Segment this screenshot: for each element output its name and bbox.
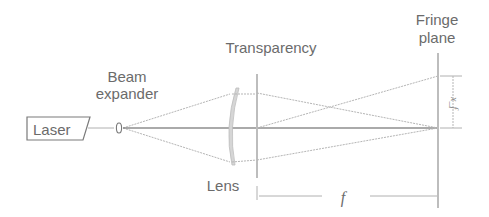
beam-expander-label-line2: expander — [96, 85, 159, 102]
focal-length-dimension: f — [257, 186, 437, 207]
laser: Laser — [27, 117, 90, 140]
ray-collimated-lower — [232, 160, 257, 162]
lens: Lens — [207, 88, 240, 194]
lens-icon — [229, 88, 239, 165]
lens-label: Lens — [207, 177, 240, 194]
ray-diffracted — [257, 76, 438, 128]
laser-label: Laser — [33, 121, 71, 138]
ray-diverge-lower — [123, 128, 230, 162]
fringe-plane: Fringe plane — [416, 11, 459, 208]
beam-expander-label-line1: Beam — [107, 68, 146, 85]
transparency-label: Transparency — [225, 39, 317, 56]
beam-expander: Beam expander — [96, 68, 159, 133]
transparency: Transparency — [225, 39, 317, 178]
fringe-plane-label-line2: plane — [419, 29, 456, 46]
fringe-plane-label-line1: Fringe — [416, 11, 459, 28]
ray-focus-lower — [257, 128, 438, 160]
ray-focus-upper — [257, 93, 438, 128]
beam-expander-lens-icon — [116, 123, 121, 133]
focal-length-label: f — [341, 189, 348, 207]
optical-setup-diagram: Laser Beam expander Lens Transparency Fr… — [0, 0, 489, 217]
fringe-offset-label: x_f — [449, 96, 460, 110]
fringe-offset-dimension: x_f — [440, 76, 462, 128]
